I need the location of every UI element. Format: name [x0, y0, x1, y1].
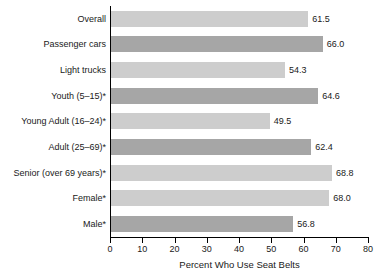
x-tick-label-40: 40 [227, 244, 251, 255]
bar[interactable] [111, 165, 332, 181]
x-tick-label-60: 60 [292, 244, 316, 255]
bar[interactable] [111, 11, 308, 27]
bar-row: Adult (25–69)*62.4 [0, 134, 381, 160]
x-tick-30 [207, 238, 208, 243]
bar-row: Light trucks54.3 [0, 57, 381, 83]
bar-row: Overall61.5 [0, 6, 381, 32]
category-label: Youth (5–15)* [51, 90, 106, 101]
bar[interactable] [111, 216, 293, 232]
bar-row: Male*56.8 [0, 211, 381, 237]
bar[interactable] [111, 88, 318, 104]
x-tick-label-30: 30 [195, 244, 219, 255]
x-tick-20 [175, 238, 176, 243]
x-axis-title: Percent Who Use Seat Belts [110, 259, 369, 271]
x-tick-40 [239, 238, 240, 243]
bar-value-label: 56.8 [297, 219, 315, 230]
bar-row: Female*68.0 [0, 186, 381, 212]
bar-row: Youth (5–15)*64.6 [0, 83, 381, 109]
category-label: Senior (over 69 years)* [13, 167, 106, 178]
bar-value-label: 68.8 [336, 167, 354, 178]
bar[interactable] [111, 190, 329, 206]
bar-value-label: 68.0 [333, 193, 351, 204]
category-label: Female* [72, 193, 106, 204]
category-label: Overall [77, 13, 106, 24]
category-label: Light trucks [60, 65, 106, 76]
x-tick-label-10: 10 [130, 244, 154, 255]
x-tick-label-80: 80 [356, 244, 380, 255]
bar[interactable] [111, 62, 285, 78]
x-tick-70 [336, 238, 337, 243]
x-tick-label-70: 70 [324, 244, 348, 255]
bar-value-label: 62.4 [315, 142, 333, 153]
bar-value-label: 61.5 [312, 13, 330, 24]
x-tick-label-50: 50 [259, 244, 283, 255]
bar-row: Young Adult (16–24)*49.5 [0, 109, 381, 135]
x-tick-60 [304, 238, 305, 243]
bar-value-label: 49.5 [274, 116, 292, 127]
seat-belt-usage-bar-chart: 01020304050607080 Overall61.5Passenger c… [0, 0, 381, 279]
category-label: Male* [83, 219, 106, 230]
bar-row: Senior (over 69 years)*68.8 [0, 160, 381, 186]
x-tick-label-20: 20 [163, 244, 187, 255]
category-label: Passenger cars [43, 39, 106, 50]
bar-row: Passenger cars66.0 [0, 32, 381, 58]
category-label: Adult (25–69)* [48, 142, 106, 153]
plot-area: 01020304050607080 Overall61.5Passenger c… [0, 0, 381, 279]
bar[interactable] [111, 139, 311, 155]
x-tick-0 [110, 238, 111, 243]
x-tick-label-0: 0 [98, 244, 122, 255]
category-label: Young Adult (16–24)* [21, 116, 106, 127]
x-tick-10 [142, 238, 143, 243]
bar[interactable] [111, 36, 323, 52]
bar[interactable] [111, 113, 270, 129]
x-tick-50 [271, 238, 272, 243]
x-tick-80 [368, 238, 369, 243]
bar-value-label: 64.6 [322, 90, 340, 101]
bar-value-label: 54.3 [289, 65, 307, 76]
bar-value-label: 66.0 [327, 39, 345, 50]
